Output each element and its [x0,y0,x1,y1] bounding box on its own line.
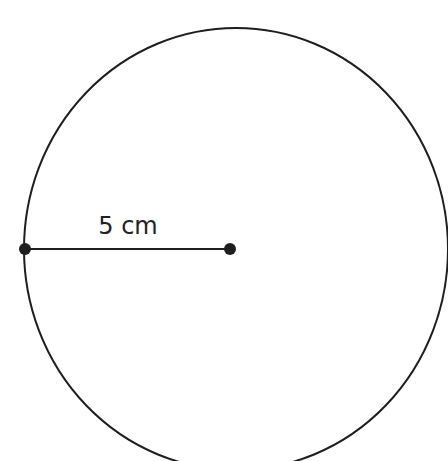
radius-label: 5 cm [98,212,157,240]
circle-diagram: 5 cm [0,0,448,461]
edge-point [19,243,31,255]
circle-outline [24,28,448,461]
center-point [224,243,236,255]
